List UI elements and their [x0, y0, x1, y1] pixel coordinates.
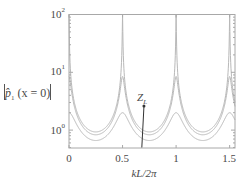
- zl-arrow: [142, 105, 146, 148]
- x-tick-label-1: 1: [173, 153, 179, 164]
- x-tick-label-1.5: 1.5: [222, 153, 236, 164]
- y-axis-label: p̂1 (x = 0): [4, 84, 51, 102]
- curve-2: [69, 76, 235, 134]
- y-tick-label-10: 101: [51, 65, 66, 77]
- axis-ticks: [69, 15, 235, 149]
- curve-3: [69, 113, 235, 141]
- data-curves: [69, 15, 235, 141]
- axes-frame: [69, 15, 235, 149]
- y-tick-label-100: 102: [51, 8, 66, 20]
- curve-1: [69, 15, 235, 132]
- x-axis-label: kL/2π: [131, 168, 156, 179]
- x-tick-label-0: 0: [66, 153, 72, 164]
- y-tick-label-1: 100: [51, 124, 66, 136]
- x-tick-label-0.5: 0.5: [115, 153, 129, 164]
- zl-annotation: ZL: [137, 92, 147, 106]
